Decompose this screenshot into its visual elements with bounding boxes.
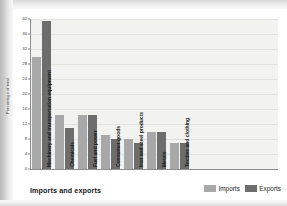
bar-series-container: Machinery and transportation equipmentCh… (31, 19, 278, 169)
chart-legend: Imports Exports (204, 185, 281, 192)
bar-imports[interactable] (78, 115, 87, 169)
legend-swatch-exports-icon (245, 185, 257, 192)
x-axis-category-label: Chemicals (69, 142, 74, 167)
legend-label-exports: Exports (259, 185, 281, 192)
bar-imports[interactable] (101, 135, 110, 169)
bar-imports[interactable] (124, 139, 133, 169)
bar-imports[interactable] (147, 132, 156, 170)
x-axis-line (30, 169, 278, 170)
y-axis-tick-label: 20 (22, 92, 27, 96)
x-axis-category-label: Consumer goods (115, 126, 120, 167)
chart-title: Imports and exports (30, 186, 101, 195)
x-axis-category-label: Fuel and power (92, 130, 97, 167)
bar-group: Consumer goods (101, 19, 120, 169)
y-axis-tick-label: 36 (22, 32, 27, 36)
y-axis-title: Percentage of total (6, 68, 10, 124)
bar-imports[interactable] (32, 57, 41, 170)
x-axis-category-label: Metals (161, 151, 166, 167)
y-axis-tick-label: 8 (25, 137, 27, 141)
bar-group: Chemicals (55, 19, 74, 169)
y-axis-tick-label: 12 (22, 122, 27, 126)
chart-page: 0481216202428323640 Percentage of total … (0, 0, 287, 206)
scan-edge-shading-top (0, 0, 287, 9)
y-axis-tick-label: 4 (25, 152, 27, 156)
scan-edge-shading-bottom (0, 200, 287, 206)
legend-label-imports: Imports (219, 185, 240, 192)
y-axis-tick-label: 40 (22, 17, 27, 21)
x-axis-category-label: Textiles and clothing (184, 118, 189, 167)
y-axis-tick-label: 24 (22, 77, 27, 81)
legend-item-imports[interactable]: Imports (204, 185, 240, 192)
y-axis-tick-label: 0 (25, 167, 27, 171)
legend-item-exports[interactable]: Exports (245, 185, 281, 192)
x-axis-category-label: Machinery and transportation equipment (46, 70, 51, 167)
y-axis-tick-label: 32 (22, 47, 27, 51)
bar-group: Textiles and clothing (170, 19, 189, 169)
bar-group: Fuel and power (78, 19, 97, 169)
bar-group: Metals (147, 19, 166, 169)
x-axis-category-label: Iron and steel products (138, 112, 143, 167)
bar-imports[interactable] (55, 115, 64, 169)
legend-swatch-imports-icon (204, 185, 216, 192)
bar-imports[interactable] (170, 143, 179, 169)
y-axis-tick-label: 16 (22, 107, 27, 111)
bar-group: Machinery and transportation equipment (32, 19, 51, 169)
y-axis-tick-label: 28 (22, 62, 27, 66)
bar-group: Iron and steel products (124, 19, 143, 169)
